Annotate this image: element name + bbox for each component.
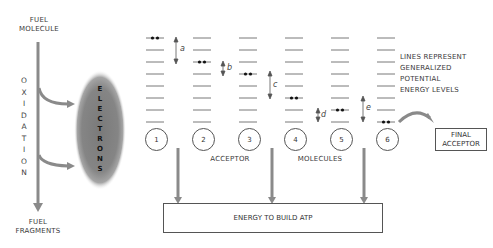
electrons-label: E L E C T R O N S	[95, 84, 105, 174]
electrons-letter: L	[95, 94, 105, 104]
final-acceptor-line2: ACCEPTOR	[442, 140, 480, 149]
electrons-letter: S	[95, 164, 105, 174]
fuel-molecule-line1: FUEL	[14, 16, 64, 25]
oxidation-letter: I	[19, 98, 29, 110]
fuel-fragments-label: FUEL FRAGMENTS	[10, 218, 66, 236]
oxidation-letter: A	[19, 121, 29, 133]
electrons-letter: N	[95, 154, 105, 164]
fuel-molecule-label: FUEL MOLECULE	[14, 16, 64, 34]
final-acceptor-box: FINAL ACCEPTOR	[435, 128, 487, 151]
acceptor-circle-6: 6	[376, 128, 399, 151]
legend-line: GENERALIZED	[400, 63, 466, 74]
electrons-letter: O	[95, 144, 105, 154]
fuel-oxidation-arrow	[33, 42, 43, 212]
oxidation-letter: D	[19, 110, 29, 122]
legend-line: POTENTIAL	[400, 74, 466, 85]
oxidation-label: O X I D A T I O N	[19, 75, 29, 179]
oxidation-letter: T	[19, 133, 29, 145]
delta-b-label: b	[227, 63, 232, 72]
delta-d-label: d	[321, 110, 326, 119]
delta-a-label: a	[180, 44, 185, 53]
fuel-fragments-line1: FUEL	[10, 218, 66, 227]
legend-text: LINES REPRESENT GENERALIZED POTENTIAL EN…	[400, 52, 466, 96]
acceptor-label: ACCEPTOR	[200, 155, 260, 164]
electrons-letter: C	[95, 114, 105, 124]
legend-line: LINES REPRESENT	[400, 52, 466, 63]
acceptor-circle-4: 4	[284, 128, 307, 151]
oxidation-letter: O	[19, 75, 29, 87]
fuel-molecule-line2: MOLECULE	[14, 25, 64, 34]
atp-box: ENERGY TO BUILD ATP	[163, 203, 383, 233]
oxidation-letter: N	[19, 167, 29, 179]
legend-line: ENERGY LEVELS	[400, 85, 466, 96]
electrons-letter: E	[95, 84, 105, 94]
delta-c-label: c	[273, 80, 277, 89]
electrons-letter: R	[95, 134, 105, 144]
acceptor-circle-2: 2	[192, 128, 215, 151]
oxidation-letter: O	[19, 156, 29, 168]
electrons-letter: T	[95, 124, 105, 134]
delta-e-label: e	[366, 103, 371, 112]
final-acceptor-arrow	[399, 113, 434, 123]
oxidation-letter: X	[19, 87, 29, 99]
electrons-letter: E	[95, 104, 105, 114]
acceptor-circle-1: 1	[145, 128, 168, 151]
acceptor-circle-5: 5	[330, 128, 353, 151]
oxidation-letter: I	[19, 144, 29, 156]
acceptor-circle-3: 3	[238, 128, 261, 151]
final-acceptor-line1: FINAL	[451, 131, 471, 140]
molecules-label: MOLECULES	[290, 155, 350, 164]
fuel-fragments-line2: FRAGMENTS	[10, 227, 66, 236]
electron-release-arrows	[39, 88, 75, 170]
